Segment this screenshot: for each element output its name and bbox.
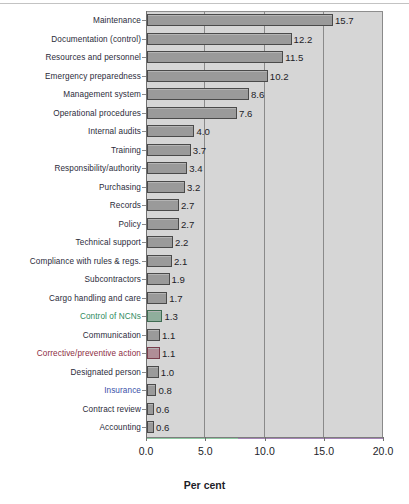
y-axis-tick — [142, 372, 146, 373]
bar-value-label: 0.8 — [158, 381, 171, 400]
y-axis-tick — [142, 20, 146, 21]
bar — [147, 366, 159, 378]
category-label: Compliance with rules & regs. — [30, 252, 141, 271]
category-label: Documentation (control) — [51, 30, 141, 49]
y-axis-tick — [142, 150, 146, 151]
chart-row: Designated person1.0 — [0, 363, 409, 382]
y-axis-tick — [142, 168, 146, 169]
y-axis-tick — [142, 39, 146, 40]
category-label: Communication — [83, 326, 141, 345]
bar-value-label: 8.6 — [251, 85, 264, 104]
y-axis-tick — [142, 205, 146, 206]
bar-value-label: 7.6 — [239, 104, 252, 123]
category-label: Control of NCNs — [80, 307, 141, 326]
y-axis-tick — [142, 298, 146, 299]
category-label: Management system — [63, 85, 141, 104]
y-axis-tick — [142, 427, 146, 428]
chart-row: Technical support2.2 — [0, 233, 409, 252]
bar — [147, 292, 167, 304]
bar — [147, 88, 249, 100]
bar — [147, 236, 173, 248]
category-label: Training — [111, 141, 141, 160]
category-label: Operational procedures — [53, 104, 141, 123]
bar — [147, 199, 179, 211]
chart-row: Records2.7 — [0, 196, 409, 215]
chart-row: Operational procedures7.6 — [0, 104, 409, 123]
bar — [147, 70, 268, 82]
bar — [147, 347, 160, 359]
chart-row: Communication1.1 — [0, 326, 409, 345]
x-axis-tick-label: 15.0 — [314, 445, 334, 457]
bar-value-label: 3.4 — [189, 159, 202, 178]
bar — [147, 162, 187, 174]
category-label: Purchasing — [99, 178, 141, 197]
category-label: Designated person — [71, 363, 141, 382]
x-axis-tick-label: 0.0 — [139, 445, 154, 457]
category-label: Internal audits — [88, 122, 141, 141]
y-axis-tick — [142, 187, 146, 188]
y-axis-tick — [142, 409, 146, 410]
bar-value-label: 15.7 — [335, 11, 354, 30]
bar-value-label: 1.7 — [169, 289, 182, 308]
bar-value-label: 1.3 — [164, 307, 177, 326]
category-label: Resources and personnel — [45, 48, 141, 67]
x-axis-tick — [383, 437, 384, 441]
bar-value-label: 0.6 — [156, 400, 169, 419]
chart-row: Purchasing3.2 — [0, 178, 409, 197]
chart-row: Accounting0.6 — [0, 418, 409, 437]
chart-row: Cargo handling and care1.7 — [0, 289, 409, 308]
chart-row: Insurance0.8 — [0, 381, 409, 400]
bar-value-label: 3.7 — [193, 141, 206, 160]
bar-value-label: 3.2 — [187, 178, 200, 197]
bar-value-label: 2.7 — [181, 215, 194, 234]
bar — [147, 273, 170, 285]
y-axis-tick — [142, 76, 146, 77]
category-label: Subcontractors — [85, 270, 141, 289]
bar — [147, 255, 172, 267]
category-label: Corrective/preventive action — [37, 344, 141, 363]
x-axis-tick — [265, 437, 266, 441]
bar-value-label: 10.2 — [270, 67, 289, 86]
bar — [147, 329, 160, 341]
category-label: Accounting — [99, 418, 141, 437]
bar-chart: Maintenance15.7Documentation (control)12… — [0, 0, 409, 504]
chart-row: Policy2.7 — [0, 215, 409, 234]
x-axis-tint-right — [238, 438, 384, 439]
chart-row: Subcontractors1.9 — [0, 270, 409, 289]
bar-value-label: 1.0 — [161, 363, 174, 382]
y-axis-tick — [142, 261, 146, 262]
chart-row: Training3.7 — [0, 141, 409, 160]
chart-row: Compliance with rules & regs.2.1 — [0, 252, 409, 271]
chart-row: Responsibility/authority3.4 — [0, 159, 409, 178]
bar-value-label: 2.2 — [175, 233, 188, 252]
bar-value-label: 1.1 — [162, 326, 175, 345]
y-axis-tick — [142, 279, 146, 280]
y-axis-tick — [142, 316, 146, 317]
y-axis-tick — [142, 94, 146, 95]
category-label: Maintenance — [93, 11, 141, 30]
chart-row: Corrective/preventive action1.1 — [0, 344, 409, 363]
x-axis-tick — [205, 437, 206, 441]
x-axis-tick-label: 5.0 — [198, 445, 213, 457]
category-label: Technical support — [76, 233, 141, 252]
x-axis-tick-label: 20.0 — [373, 445, 393, 457]
chart-row: Internal audits4.0 — [0, 122, 409, 141]
y-axis-tick — [142, 131, 146, 132]
bar-value-label: 12.2 — [294, 30, 313, 49]
x-axis-tick-label: 10.0 — [254, 445, 274, 457]
chart-row: Resources and personnel11.5 — [0, 48, 409, 67]
category-label: Cargo handling and care — [49, 289, 141, 308]
y-axis-tick — [142, 224, 146, 225]
bar-value-label: 1.9 — [172, 270, 185, 289]
chart-row: Contract review0.6 — [0, 400, 409, 419]
y-axis-tick — [142, 353, 146, 354]
chart-row: Emergency preparedness10.2 — [0, 67, 409, 86]
category-label: Contract review — [83, 400, 141, 419]
bar-value-label: 2.7 — [181, 196, 194, 215]
bar — [147, 14, 333, 26]
bar — [147, 107, 237, 119]
bar — [147, 181, 185, 193]
bar-value-label: 0.6 — [156, 418, 169, 437]
bar — [147, 403, 154, 415]
category-label: Emergency preparedness — [45, 67, 141, 86]
